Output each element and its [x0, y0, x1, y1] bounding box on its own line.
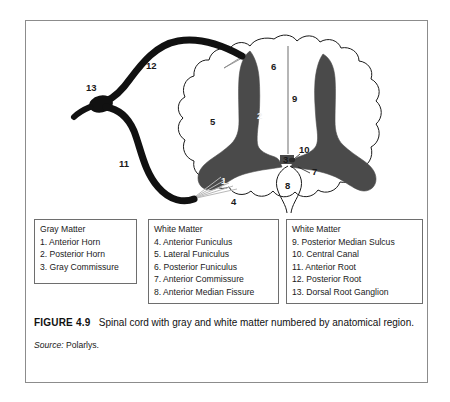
caption-block: FIGURE 4.9 Spinal cord with gray and whi… — [34, 316, 419, 351]
figure-frame: 1 2 3 4 5 6 7 8 9 10 11 12 13 Gray Matte… — [25, 20, 428, 383]
diagram-label-7: 7 — [312, 167, 317, 177]
diagram-label-10: 10 — [299, 145, 310, 155]
figure-caption: FIGURE 4.9 Spinal cord with gray and whi… — [34, 316, 419, 330]
diagram-label-6: 6 — [271, 62, 276, 72]
legend-item: 11. Anterior Root — [292, 261, 418, 274]
ganglion-tail — [74, 107, 90, 117]
legend-row: Gray Matter 1. Anterior Horn 2. Posterio… — [34, 219, 424, 307]
diagram-label-5: 5 — [210, 117, 215, 127]
source-value: Polarlys. — [66, 340, 99, 350]
legend-item: 3. Gray Commissure — [40, 261, 132, 274]
legend-item: 6. Posterior Funiculus — [154, 261, 274, 274]
source-label: Source: — [34, 340, 64, 350]
diagram-label-9: 9 — [292, 94, 297, 104]
legend-item: 8. Anterior Median Fissure — [154, 286, 274, 299]
legend-item: 4. Anterior Funiculus — [154, 236, 274, 249]
legend-title-white-matter-right: White Matter — [292, 223, 418, 236]
diagram-label-8: 8 — [285, 181, 290, 191]
diagram-label-1: 1 — [221, 176, 226, 186]
spinal-cord-illustration — [26, 21, 429, 216]
legend-box-white-matter-left: White Matter 4. Anterior Funiculus 5. La… — [148, 219, 279, 304]
legend-item: 1. Anterior Horn — [40, 236, 132, 249]
legend-item: 9. Posterior Median Sulcus — [292, 236, 418, 249]
legend-box-white-matter-right: White Matter 9. Posterior Median Sulcus … — [286, 219, 423, 304]
spinal-cord-diagram: 1 2 3 4 5 6 7 8 9 10 11 12 13 — [26, 21, 429, 216]
legend-title-gray-matter: Gray Matter — [40, 223, 132, 236]
legend-box-gray-matter: Gray Matter 1. Anterior Horn 2. Posterio… — [34, 219, 137, 284]
diagram-label-12: 12 — [146, 61, 157, 71]
legend-item: 13. Dorsal Root Ganglion — [292, 286, 418, 299]
legend-title-white-matter-left: White Matter — [154, 223, 274, 236]
legend-item: 2. Posterior Horn — [40, 248, 132, 261]
legend-item: 5. Lateral Funiculus — [154, 248, 274, 261]
legend-item: 12. Posterior Root — [292, 273, 418, 286]
legend-item: 10. Central Canal — [292, 248, 418, 261]
source-line: Source: Polarlys. — [34, 339, 419, 351]
diagram-label-11: 11 — [119, 159, 129, 169]
figure-number: FIGURE 4.9 — [34, 317, 90, 328]
diagram-label-4: 4 — [231, 197, 236, 207]
figure-page: 1 2 3 4 5 6 7 8 9 10 11 12 13 Gray Matte… — [0, 0, 450, 402]
legend-item: 7. Anterior Commissure — [154, 273, 274, 286]
diagram-label-13: 13 — [86, 83, 97, 93]
diagram-label-2: 2 — [257, 111, 262, 121]
figure-caption-text: Spinal cord with gray and white matter n… — [99, 317, 414, 328]
diagram-label-3: 3 — [283, 155, 288, 165]
